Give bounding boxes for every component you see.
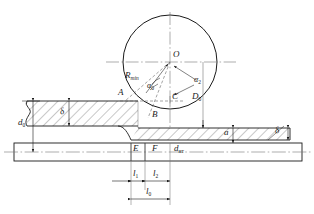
label-l2: l2 (153, 169, 158, 178)
label-alpha0-sub: 0 (151, 85, 154, 91)
label-alpha2: α2 (194, 76, 201, 84)
label-R-sub: min (131, 75, 139, 81)
label-l1: l1 (133, 169, 138, 178)
lower-workpiece (131, 128, 290, 140)
label-center-O: O (173, 50, 180, 59)
label-l0: l0 (146, 187, 151, 196)
diagram-svg (0, 0, 314, 214)
label-alpha0: α0 (147, 82, 154, 90)
label-point-A: A (118, 88, 124, 97)
label-point-B: B (152, 110, 158, 119)
upper-workpiece (25, 101, 138, 126)
label-D0-base: D (192, 91, 199, 101)
label-Rmin: Rmin (125, 71, 139, 80)
label-d0-sub: 0 (23, 122, 26, 128)
label-point-D0: D0 (192, 92, 201, 101)
label-l0-sub: 0 (149, 191, 152, 197)
label-dm-base: d (174, 143, 179, 153)
label-dm-sub: нт (179, 148, 184, 154)
label-alpha2-sub: 2 (198, 79, 201, 85)
label-point-C: C (172, 92, 178, 101)
label-dm: dнт (174, 144, 184, 153)
base-plate (4, 143, 312, 161)
label-a: a (224, 128, 229, 137)
diagram-canvas: O A B C D0 Rmin α0 α2 d0 δ δ a E F dнт l… (0, 0, 314, 214)
label-R-base: R (125, 70, 131, 80)
label-l2-sub: 2 (156, 173, 159, 179)
label-point-F: F (152, 144, 158, 153)
label-l1-sub: 1 (136, 173, 139, 179)
label-point-E: E (133, 144, 139, 153)
label-D0-sub: 0 (199, 96, 202, 102)
label-d0: d0 (18, 118, 25, 127)
label-d0-base: d (18, 117, 23, 127)
